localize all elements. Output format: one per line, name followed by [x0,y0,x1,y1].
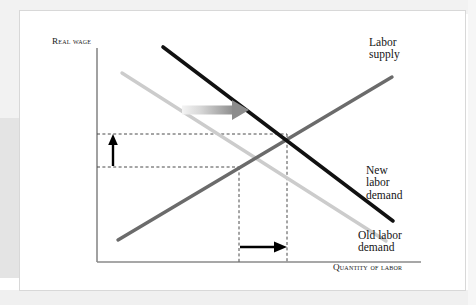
label-old-labor-demand-line1: Old labor [358,229,402,241]
page-canvas: Real wage Quantity of labor Labor supply… [0,0,476,305]
wage-increase-arrow [108,134,118,166]
quantity-increase-arrow [240,242,287,253]
label-old-labor-demand-line2: demand [358,241,402,253]
label-labor-supply-line2: supply [369,48,400,60]
label-labor-supply: Labor supply [369,36,400,61]
label-new-labor-demand-line1: New [366,164,402,176]
y-axis-title: Real wage [52,36,91,46]
label-new-labor-demand-line2: labor [366,176,402,188]
label-new-labor-demand: New labor demand [366,164,402,201]
label-old-labor-demand: Old labor demand [358,229,402,254]
label-labor-supply-line1: Labor [369,36,400,48]
curve-labor-supply [118,77,392,240]
x-axis-title: Quantity of labor [333,262,402,272]
label-new-labor-demand-line3: demand [366,189,402,201]
curve-new-labor-demand [163,47,393,221]
